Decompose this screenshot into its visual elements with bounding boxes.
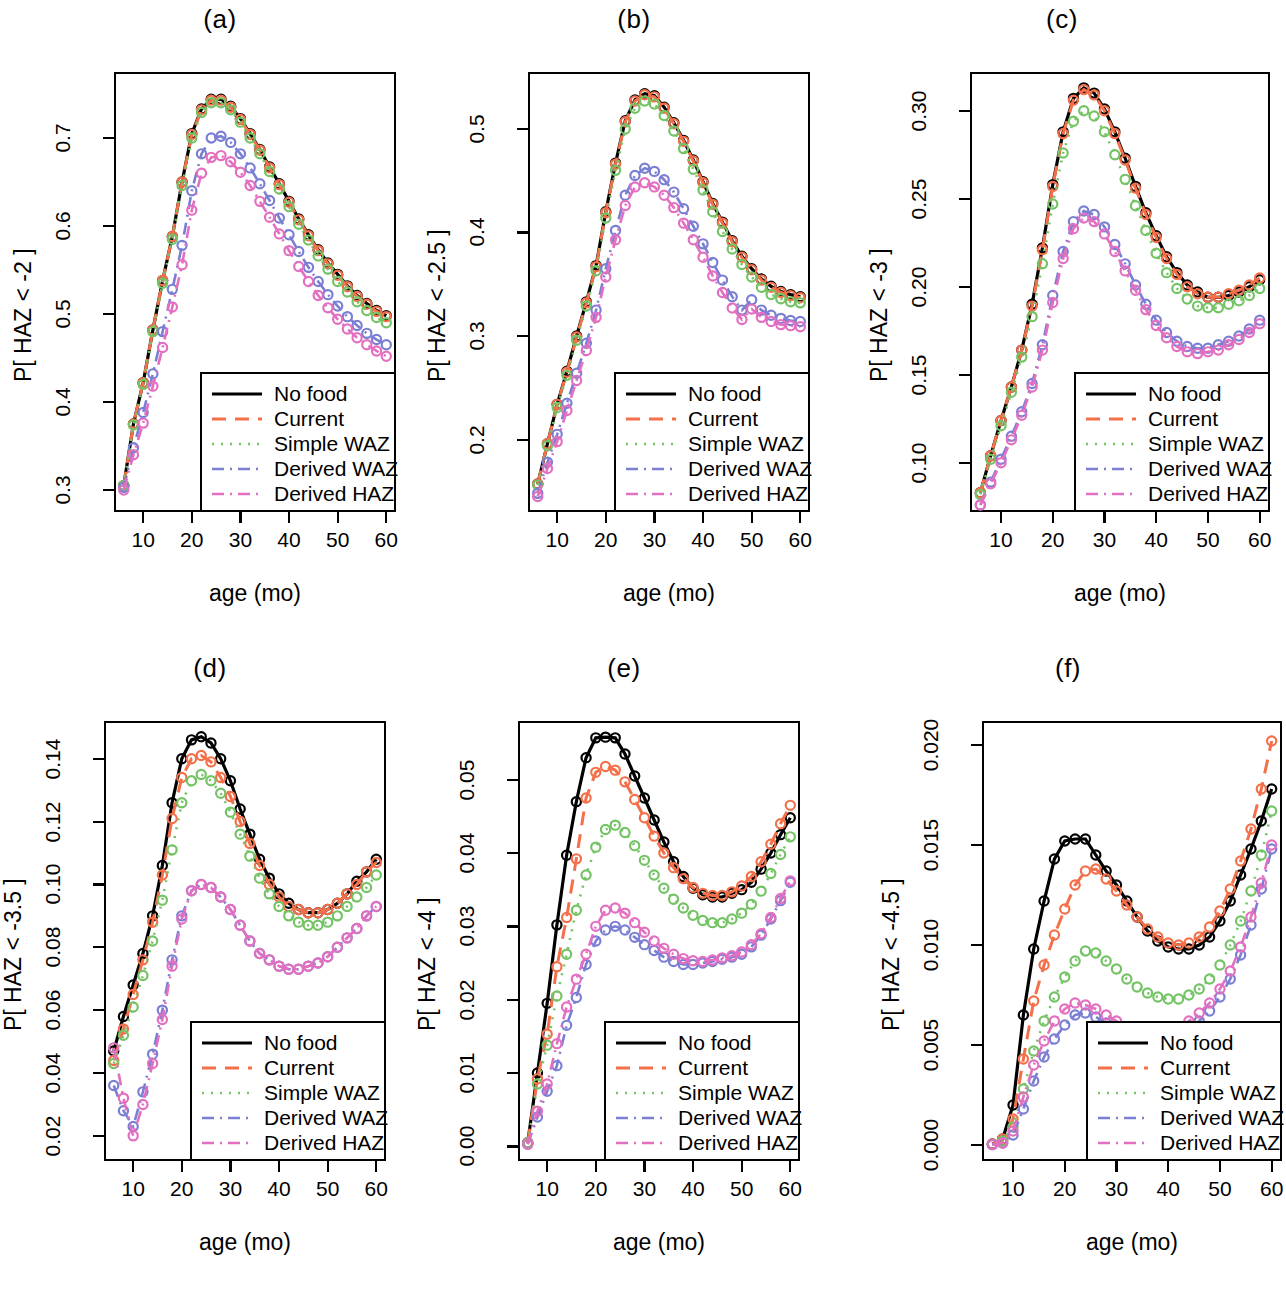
data-point [382,340,391,349]
data-point [226,808,235,817]
data-point [236,168,245,177]
data-point [630,182,639,191]
legend-item-derived-haz[interactable]: Derived HAZ [208,481,388,506]
legend-item-current[interactable]: Current [622,406,802,431]
legend-item-current[interactable]: Current [208,406,388,431]
legend-item-derived-haz[interactable]: Derived HAZ [1094,1130,1274,1155]
legend-item-no-food[interactable]: No food [208,381,388,406]
legend-item-derived-haz[interactable]: Derived HAZ [622,481,802,506]
legend-item-current[interactable]: Current [612,1055,792,1080]
legend-key-swatch [1094,1133,1152,1153]
legend: No foodCurrentSimple WAZDerived WAZDeriv… [200,372,396,512]
data-point [1071,956,1080,965]
data-point [1091,948,1100,957]
legend-item-no-food[interactable]: No food [1082,381,1262,406]
legend-item-current[interactable]: Current [198,1055,378,1080]
legend-key-swatch [622,459,680,479]
data-point [650,870,659,879]
data-point [620,828,629,837]
legend-item-no-food[interactable]: No food [612,1030,792,1055]
data-point [650,936,659,945]
legend-label: Simple WAZ [266,433,390,454]
legend-item-simple-waz[interactable]: Simple WAZ [198,1080,378,1105]
data-point [353,333,362,342]
data-point [1121,175,1130,184]
legend-item-derived-waz[interactable]: Derived WAZ [622,456,802,481]
legend-item-simple-waz[interactable]: Simple WAZ [1082,431,1262,456]
legend-label: Current [670,1057,748,1078]
legend-key-swatch [208,484,266,504]
legend-item-derived-haz[interactable]: Derived HAZ [1082,481,1262,506]
legend-key-swatch [198,1083,256,1103]
legend-item-current[interactable]: Current [1082,406,1262,431]
legend-item-no-food[interactable]: No food [1094,1030,1274,1055]
data-point [265,889,274,898]
data-point [630,795,639,804]
data-point [1203,303,1212,312]
data-point [1215,906,1224,915]
legend-key-swatch [1082,459,1140,479]
legend-key-swatch [1082,409,1140,429]
data-point [1079,106,1088,115]
data-point [333,911,342,920]
legend-item-simple-waz[interactable]: Simple WAZ [1094,1080,1274,1105]
data-point [206,776,215,785]
data-point [1267,806,1276,815]
data-point [718,275,727,284]
legend-label: Simple WAZ [1140,433,1264,454]
data-point [148,936,157,945]
legend-label: No food [670,1032,752,1053]
legend-item-no-food[interactable]: No food [622,381,802,406]
legend-item-derived-waz[interactable]: Derived WAZ [1082,456,1262,481]
data-point [688,911,697,920]
legend-key-swatch [622,409,680,429]
data-point [284,230,293,239]
data-point [1162,268,1171,277]
legend: No foodCurrentSimple WAZDerived WAZDeriv… [1086,1021,1282,1161]
data-point [1050,992,1059,1001]
legend-label: Derived HAZ [670,1132,798,1153]
legend-item-simple-waz[interactable]: Simple WAZ [208,431,388,456]
legend-item-derived-waz[interactable]: Derived WAZ [198,1105,378,1130]
data-point [621,201,630,210]
data-point [650,167,659,176]
series-layer [10,0,470,649]
data-point [708,258,717,267]
legend-key-swatch [612,1083,670,1103]
legend-label: Derived HAZ [266,483,394,504]
legend-item-current[interactable]: Current [1094,1055,1274,1080]
legend-item-derived-haz[interactable]: Derived HAZ [198,1130,378,1155]
legend-item-derived-waz[interactable]: Derived WAZ [1094,1105,1274,1130]
data-point [1184,990,1193,999]
legend-item-derived-waz[interactable]: Derived WAZ [208,456,388,481]
series-line-no-food [114,737,377,1051]
data-point [1069,117,1078,126]
data-point [1050,1034,1059,1043]
legend-key-swatch [208,384,266,404]
data-point [304,277,313,286]
data-point [1029,1060,1038,1069]
data-point [620,925,629,934]
panel-c: (c)0.100.150.200.250.30102030405060P[ HA… [838,0,1286,649]
legend-key-swatch [1094,1033,1152,1053]
data-point [552,962,561,971]
data-point [245,936,254,945]
data-point [640,813,649,822]
legend: No foodCurrentSimple WAZDerived WAZDeriv… [604,1021,800,1161]
data-point [718,918,727,927]
panel-d: (d)0.020.040.060.080.100.120.14102030405… [0,649,420,1298]
data-point [1215,960,1224,969]
legend-label: Current [1152,1057,1230,1078]
data-point [323,303,332,312]
legend-item-no-food[interactable]: No food [198,1030,378,1055]
legend-label: Simple WAZ [680,433,804,454]
data-point [640,940,649,949]
legend-item-simple-waz[interactable]: Simple WAZ [612,1080,792,1105]
legend-item-simple-waz[interactable]: Simple WAZ [622,431,802,456]
legend-item-derived-waz[interactable]: Derived WAZ [612,1105,792,1130]
legend-key-swatch [1094,1058,1152,1078]
data-point [1112,964,1121,973]
legend-key-swatch [612,1033,670,1053]
legend-item-derived-haz[interactable]: Derived HAZ [612,1130,792,1155]
panel-row-1: (a)0.30.40.50.60.7102030405060P[ HAZ < -… [0,0,1286,649]
